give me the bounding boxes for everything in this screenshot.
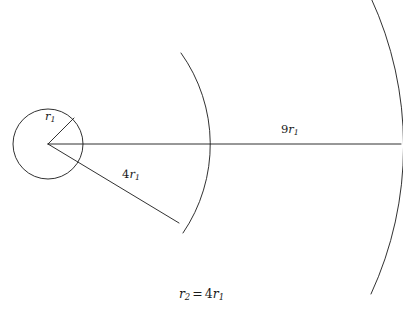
outer-arc [371, 0, 403, 294]
label-outer-radius: 9r1 [281, 124, 299, 137]
label-inner-radius: r1 [45, 111, 55, 124]
figure-canvas [0, 0, 403, 312]
caption-rhs-subscript: 1 [219, 292, 224, 302]
figure-caption: r2=4r1 [0, 288, 403, 302]
geometry-figure: r1 4r1 9r1 r2=4r1 [0, 0, 403, 312]
middle-radius-line [48, 144, 179, 223]
label-outer-radius-subscript: 1 [294, 128, 299, 137]
label-middle-radius: 4r1 [122, 169, 140, 182]
label-inner-radius-subscript: 1 [51, 115, 56, 124]
label-middle-radius-subscript: 1 [135, 173, 140, 182]
middle-arc [181, 53, 210, 233]
caption-rhs-coefficient: 4 [205, 286, 213, 301]
caption-operator: = [190, 286, 204, 301]
